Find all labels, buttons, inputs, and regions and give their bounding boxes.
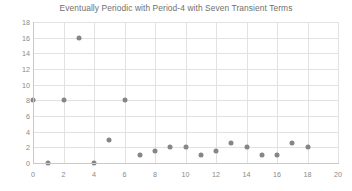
data-point <box>259 153 264 158</box>
x-tick-20: 20 <box>334 170 342 179</box>
gridline-x-14 <box>247 22 248 163</box>
gridline-x-20 <box>338 22 339 163</box>
data-point <box>76 35 81 40</box>
gridline-x-4 <box>94 22 95 163</box>
y-tick-2: 2 <box>4 143 30 152</box>
y-tick-0: 0 <box>4 159 30 168</box>
y-tick-14: 14 <box>4 49 30 58</box>
y-axis-line <box>33 22 34 164</box>
x-tick-14: 14 <box>243 170 251 179</box>
x-tick-6: 6 <box>123 170 127 179</box>
chart-title: Eventually Periodic with Period-4 with S… <box>0 3 352 13</box>
x-tick-18: 18 <box>304 170 312 179</box>
x-axis-tick-labels: 02468101214161820 <box>33 170 339 182</box>
gridline-x-6 <box>125 22 126 163</box>
y-tick-18: 18 <box>4 18 30 27</box>
gridline-x-8 <box>155 22 156 163</box>
data-point <box>305 145 310 150</box>
data-point <box>214 149 219 154</box>
y-tick-8: 8 <box>4 96 30 105</box>
y-tick-4: 4 <box>4 127 30 136</box>
data-point <box>198 153 203 158</box>
data-point <box>168 145 173 150</box>
data-point <box>137 153 142 158</box>
gridline-x-16 <box>277 22 278 163</box>
data-point <box>107 137 112 142</box>
scatter-chart: Eventually Periodic with Period-4 with S… <box>0 0 352 191</box>
x-tick-16: 16 <box>273 170 281 179</box>
gridline-x-18 <box>308 22 309 163</box>
x-tick-2: 2 <box>62 170 66 179</box>
data-point <box>122 98 127 103</box>
x-tick-0: 0 <box>31 170 35 179</box>
data-point <box>61 98 66 103</box>
gridline-x-10 <box>186 22 187 163</box>
data-point <box>153 149 158 154</box>
x-axis-line <box>33 163 339 164</box>
data-point <box>183 145 188 150</box>
y-tick-6: 6 <box>4 112 30 121</box>
data-point <box>290 141 295 146</box>
y-tick-10: 10 <box>4 80 30 89</box>
data-point <box>244 145 249 150</box>
y-axis-tick-labels: 024681012141618 <box>0 22 30 163</box>
y-tick-12: 12 <box>4 65 30 74</box>
data-point <box>229 141 234 146</box>
gridline-x-12 <box>216 22 217 163</box>
plot-area <box>33 22 338 163</box>
x-tick-8: 8 <box>153 170 157 179</box>
x-tick-12: 12 <box>212 170 220 179</box>
y-tick-16: 16 <box>4 33 30 42</box>
x-tick-4: 4 <box>92 170 96 179</box>
data-point <box>275 153 280 158</box>
x-tick-10: 10 <box>182 170 190 179</box>
gridline-x-2 <box>64 22 65 163</box>
